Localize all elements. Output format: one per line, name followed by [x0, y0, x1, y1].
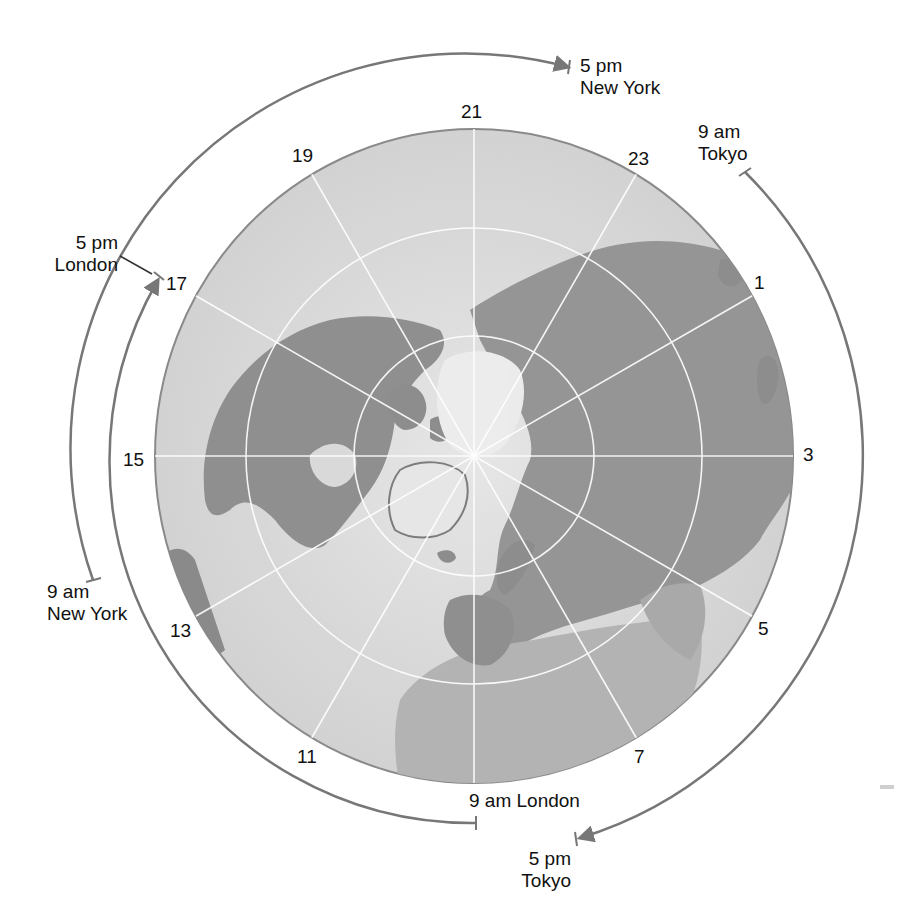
hour-label-17: 17	[166, 273, 187, 295]
time-text: 5 pm	[484, 848, 571, 870]
city-text: Tokyo	[484, 870, 571, 892]
polar-map-figure: 21 23 1 3 5 7 11 13 15 17 19 5 pm New Yo…	[0, 0, 901, 913]
city-text: New York	[47, 603, 127, 625]
globe	[150, 120, 800, 800]
hour-label-3: 3	[803, 444, 814, 466]
city-text: London	[38, 254, 118, 276]
hour-label-1: 1	[754, 272, 765, 294]
hour-label-13: 13	[170, 620, 191, 642]
time-text: 5 pm	[38, 232, 118, 254]
hour-label-21: 21	[461, 101, 482, 123]
tokyo-9am-label: 9 am Tokyo	[698, 121, 748, 165]
london-5pm-label: 5 pm London	[38, 232, 118, 276]
hour-label-11: 11	[297, 746, 317, 768]
london-9am-label: 9 am London	[469, 790, 580, 812]
time-text: 9 am	[47, 581, 127, 603]
hour-label-23: 23	[628, 148, 649, 170]
time-text: 5 pm	[580, 55, 660, 77]
time-text: 9 am	[698, 121, 748, 143]
tokyo-5pm-label: 5 pm Tokyo	[484, 848, 571, 892]
hour-label-19: 19	[292, 145, 313, 167]
new-york-5pm-label: 5 pm New York	[580, 55, 660, 99]
new-york-9am-label: 9 am New York	[47, 581, 127, 625]
hour-label-5: 5	[758, 618, 769, 640]
hour-label-15: 15	[123, 449, 144, 471]
hour-label-7: 7	[634, 746, 645, 768]
city-text: New York	[580, 77, 660, 99]
city-text: Tokyo	[698, 143, 748, 165]
scan-artifact	[880, 785, 894, 789]
